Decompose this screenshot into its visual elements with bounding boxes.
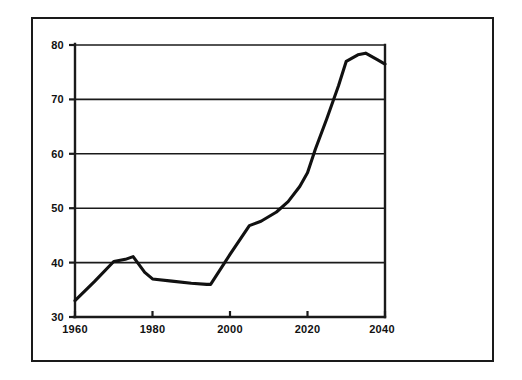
ytick-label-30: 30 [51, 311, 64, 323]
xtick-label-2000: 2000 [217, 323, 243, 335]
y-tick-labels: 80 70 60 50 40 30 [51, 39, 64, 323]
line-chart: 80 70 60 50 40 30 1960 1980 2000 2020 20… [0, 0, 522, 380]
xtick-label-2040: 2040 [369, 323, 395, 335]
xtick-label-1980: 1980 [140, 323, 166, 335]
ytick-label-70: 70 [51, 93, 64, 105]
data-series-line [75, 53, 385, 301]
xtick-label-1960: 1960 [62, 323, 88, 335]
figure-root: 80 70 60 50 40 30 1960 1980 2000 2020 20… [0, 0, 522, 380]
ytick-label-40: 40 [51, 257, 64, 269]
ytick-label-80: 80 [51, 39, 64, 51]
gridlines [75, 45, 385, 263]
ytick-label-60: 60 [51, 148, 64, 160]
ytick-label-50: 50 [51, 202, 64, 214]
xtick-label-2020: 2020 [295, 323, 321, 335]
x-tick-labels: 1960 1980 2000 2020 2040 [62, 323, 395, 335]
